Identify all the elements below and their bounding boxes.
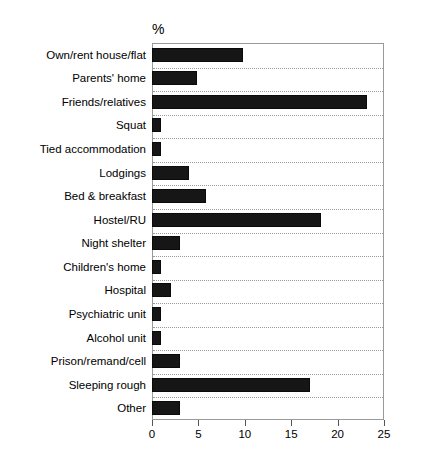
category-label: Sleeping rough	[0, 379, 146, 391]
category-label: Lodgings	[0, 167, 146, 179]
bar	[152, 331, 161, 345]
axis-unit-label: %	[152, 22, 165, 36]
grid-separator	[153, 256, 383, 257]
x-axis-tick	[384, 420, 385, 426]
bar-row	[152, 401, 384, 415]
bar	[152, 48, 243, 62]
bar	[152, 378, 310, 392]
x-axis-tick	[338, 420, 339, 426]
category-label: Friends/relatives	[0, 96, 146, 108]
scan-artifact	[0, 0, 427, 6]
x-axis-tick	[152, 420, 153, 426]
bar-row	[152, 331, 384, 345]
bar-row	[152, 142, 384, 156]
grid-separator	[153, 91, 383, 92]
bar	[152, 142, 161, 156]
bar-row	[152, 48, 384, 62]
bar-row	[152, 189, 384, 203]
category-label: Hostel/RU	[0, 214, 146, 226]
bar	[152, 71, 197, 85]
category-label: Hospital	[0, 284, 146, 296]
x-axis-tick-label: 20	[318, 428, 358, 441]
category-label: Tied accommodation	[0, 143, 146, 155]
grid-separator	[153, 233, 383, 234]
x-axis-tick-label: 25	[364, 428, 404, 441]
category-label: Squat	[0, 119, 146, 131]
bar	[152, 118, 161, 132]
bar	[152, 401, 180, 415]
bar-row	[152, 307, 384, 321]
bar	[152, 166, 189, 180]
bar-chart: % Own/rent house/flatParents' homeFriend…	[0, 0, 427, 466]
x-axis-tick	[245, 420, 246, 426]
grid-separator	[153, 162, 383, 163]
grid-separator	[153, 138, 383, 139]
category-label: Night shelter	[0, 237, 146, 249]
bar	[152, 354, 180, 368]
x-axis-tick	[198, 420, 199, 426]
category-label: Own/rent house/flat	[0, 49, 146, 61]
bar-row	[152, 283, 384, 297]
x-axis-tick	[291, 420, 292, 426]
category-label: Psychiatric unit	[0, 308, 146, 320]
grid-separator	[153, 303, 383, 304]
bar-row	[152, 354, 384, 368]
category-label: Other	[0, 402, 146, 414]
bar	[152, 283, 171, 297]
bar	[152, 260, 161, 274]
grid-separator	[153, 374, 383, 375]
bar-row	[152, 378, 384, 392]
grid-separator	[153, 327, 383, 328]
x-axis-tick-label: 15	[271, 428, 311, 441]
bar-row	[152, 213, 384, 227]
bar-row	[152, 118, 384, 132]
bar-row	[152, 95, 384, 109]
x-axis-tick-label: 0	[132, 428, 172, 441]
grid-separator	[153, 115, 383, 116]
x-axis-tick-label: 5	[178, 428, 218, 441]
grid-separator	[153, 280, 383, 281]
category-label: Bed & breakfast	[0, 190, 146, 202]
grid-separator	[153, 185, 383, 186]
bar-row	[152, 166, 384, 180]
bar-row	[152, 71, 384, 85]
bar	[152, 236, 180, 250]
grid-separator	[153, 209, 383, 210]
bar	[152, 189, 206, 203]
bar-row	[152, 260, 384, 274]
category-label: Alcohol unit	[0, 332, 146, 344]
bar	[152, 307, 161, 321]
x-axis-tick-label: 10	[225, 428, 265, 441]
category-label: Parents' home	[0, 72, 146, 84]
category-label: Children's home	[0, 261, 146, 273]
grid-separator	[153, 397, 383, 398]
grid-separator	[153, 350, 383, 351]
bar-row	[152, 236, 384, 250]
grid-separator	[153, 68, 383, 69]
bar	[152, 95, 367, 109]
bar	[152, 213, 321, 227]
category-label: Prison/remand/cell	[0, 355, 146, 367]
